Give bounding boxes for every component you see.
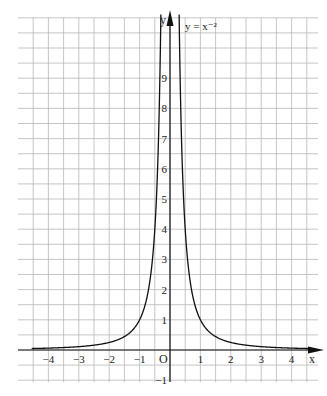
- x-tick-label: −4: [43, 353, 55, 365]
- y-tick-label: 5: [162, 193, 168, 205]
- x-tick-label: 2: [228, 353, 234, 365]
- y-tick-label: 9: [162, 72, 168, 84]
- graph-figure: −4−3−2−11234−1123456789 y = x⁻² y x O: [0, 0, 327, 396]
- x-tick-label: −1: [134, 353, 146, 365]
- function-label: y = x⁻²: [185, 20, 218, 32]
- y-tick-label: 7: [162, 133, 168, 145]
- origin-label: O: [159, 352, 168, 366]
- y-tick-label: −1: [155, 374, 167, 386]
- grid: [18, 18, 318, 382]
- y-tick-label: 6: [162, 163, 168, 175]
- curve-left-branch: [32, 14, 161, 348]
- x-tick-label: −2: [103, 353, 115, 365]
- y-tick-label: 4: [162, 223, 168, 235]
- x-tick-label: 1: [198, 353, 204, 365]
- y-tick-label: 1: [162, 314, 168, 326]
- y-tick-label: 3: [162, 253, 168, 265]
- curve-right-branch: [179, 14, 308, 348]
- x-tick-label: 3: [258, 353, 264, 365]
- x-tick-label: −3: [73, 353, 85, 365]
- y-tick-label: 2: [162, 284, 168, 296]
- x-axis-label: x: [309, 352, 315, 366]
- y-axis-label: y: [160, 13, 166, 27]
- plot-area: −4−3−2−11234−1123456789 y = x⁻² y x O: [0, 0, 327, 396]
- y-tick-label: 8: [162, 102, 168, 114]
- x-tick-label: 4: [289, 353, 295, 365]
